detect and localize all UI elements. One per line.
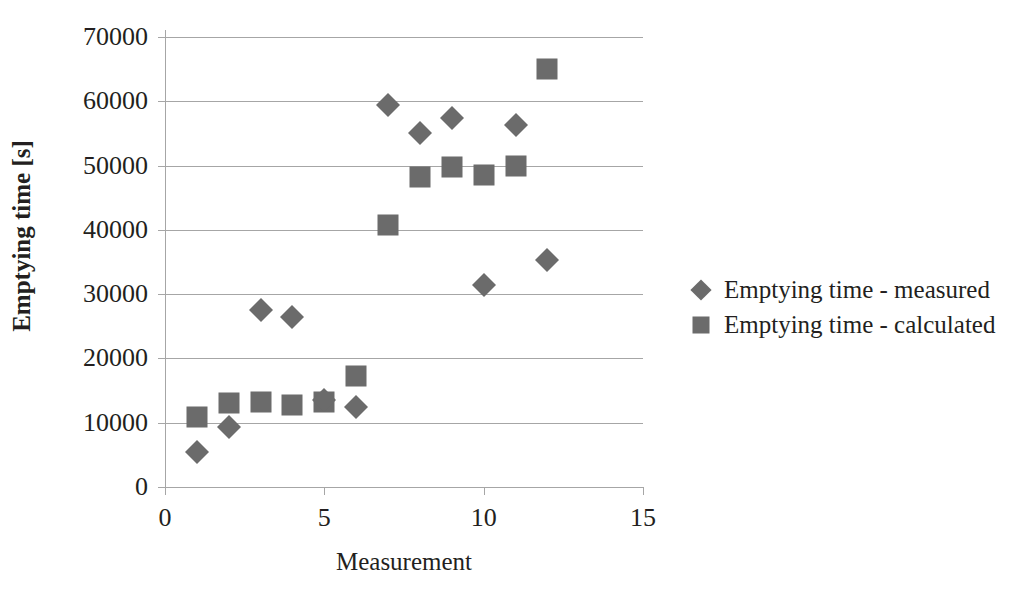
data-point-square xyxy=(505,155,526,176)
data-point-diamond xyxy=(280,305,304,329)
data-point-square xyxy=(473,165,494,186)
data-point-diamond xyxy=(185,440,209,464)
x-tick-label: 0 xyxy=(125,505,205,531)
data-point-diamond xyxy=(440,106,464,130)
data-point-square xyxy=(250,391,271,412)
gridline-y xyxy=(165,37,643,38)
data-point-square xyxy=(186,406,207,427)
plot-area xyxy=(165,37,643,487)
gridline-y xyxy=(165,487,643,488)
data-point-diamond xyxy=(504,113,528,137)
square-marker-icon xyxy=(690,314,712,336)
tick-x xyxy=(324,487,325,495)
tick-x xyxy=(643,487,644,495)
data-point-diamond xyxy=(408,121,432,145)
y-tick-label: 0 xyxy=(0,474,148,500)
legend-item-measured: Emptying time - measured xyxy=(690,272,995,307)
data-point-square xyxy=(409,167,430,188)
scatter-chart: 010000200003000040000500006000070000 051… xyxy=(0,0,1019,601)
data-point-diamond xyxy=(217,415,241,439)
tick-y xyxy=(158,487,165,488)
data-point-diamond xyxy=(344,395,368,419)
data-point-square xyxy=(441,156,462,177)
tick-x xyxy=(165,487,166,495)
y-axis-title: Emptying time [s] xyxy=(8,46,36,426)
tick-y xyxy=(158,37,165,38)
chart-legend: Emptying time - measured Emptying time -… xyxy=(690,272,995,342)
gridline-y xyxy=(165,358,643,359)
data-point-square xyxy=(537,59,558,80)
data-point-diamond xyxy=(376,92,400,116)
data-point-square xyxy=(378,214,399,235)
data-point-square xyxy=(282,394,303,415)
x-axis-title: Measurement xyxy=(165,548,643,576)
gridline-y xyxy=(165,230,643,231)
legend-item-label: Emptying time - measured xyxy=(724,277,990,302)
tick-y xyxy=(158,294,165,295)
data-point-diamond xyxy=(249,298,273,322)
data-point-diamond xyxy=(472,272,496,296)
legend-item-calculated: Emptying time - calculated xyxy=(690,307,995,342)
tick-y xyxy=(158,423,165,424)
tick-y xyxy=(158,358,165,359)
gridline-y xyxy=(165,166,643,167)
tick-y xyxy=(158,230,165,231)
legend-item-label: Emptying time - calculated xyxy=(724,312,995,337)
tick-y xyxy=(158,166,165,167)
data-point-square xyxy=(218,393,239,414)
tick-y xyxy=(158,101,165,102)
gridline-y xyxy=(165,294,643,295)
x-tick-label: 10 xyxy=(444,505,524,531)
data-point-square xyxy=(346,366,367,387)
x-tick-label: 5 xyxy=(284,505,364,531)
gridline-y xyxy=(165,101,643,102)
tick-x xyxy=(484,487,485,495)
data-point-diamond xyxy=(535,248,559,272)
x-tick-label: 15 xyxy=(603,505,683,531)
diamond-marker-icon xyxy=(690,279,712,301)
